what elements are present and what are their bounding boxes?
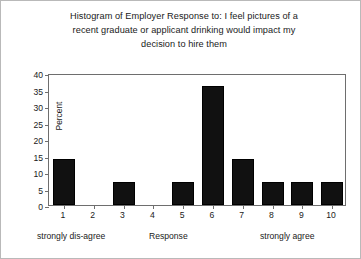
chart-title-line-1: Histogram of Employer Response to: I fee… — [29, 9, 339, 23]
histogram-bar — [202, 86, 224, 205]
scale-anchor-high-label: strongly agree — [260, 231, 314, 241]
x-axis-tick-label: 3 — [108, 211, 138, 220]
y-axis-tick-label: 15 — [21, 154, 43, 163]
histogram-bar — [321, 182, 343, 205]
plot-area: Percent 0510152025303540 — [48, 74, 346, 206]
y-axis-tick-label: 35 — [21, 88, 43, 97]
x-axis-tick-mark — [64, 205, 65, 209]
histogram-bar — [113, 182, 135, 205]
x-axis-tick-mark — [153, 205, 154, 209]
bars-layer — [49, 75, 345, 205]
x-axis-tick-label: 2 — [78, 211, 108, 220]
x-axis-tick-label: 9 — [286, 211, 316, 220]
x-axis-tick-label: 10 — [316, 211, 346, 220]
histogram-bar — [53, 159, 75, 205]
histogram-bar — [262, 182, 284, 205]
scale-anchor-low-label: strongly dis-agree — [37, 231, 105, 241]
histogram-bar — [172, 182, 194, 205]
y-axis-tick-label: 0 — [21, 203, 43, 212]
chart-title-line-2: recent graduate or applicant drinking wo… — [29, 23, 339, 37]
chart-page-frame: Histogram of Employer Response to: I fee… — [0, 0, 361, 259]
x-axis-tick-mark — [332, 205, 333, 209]
x-axis-tick-label: 1 — [48, 211, 78, 220]
x-axis-tick-mark — [124, 205, 125, 209]
x-axis-tick-mark — [213, 205, 214, 209]
x-axis-tick-mark — [273, 205, 274, 209]
y-axis-tick-label: 30 — [21, 104, 43, 113]
x-axis-tick-label: 5 — [167, 211, 197, 220]
y-axis-tick-label: 40 — [21, 71, 43, 80]
y-axis-tick-mark — [45, 207, 49, 208]
x-axis-tick-label: 7 — [227, 211, 257, 220]
chart-title-line-3: decision to hire them — [29, 37, 339, 51]
y-axis-tick-label: 10 — [21, 170, 43, 179]
y-axis-tick-label: 5 — [21, 187, 43, 196]
y-axis-tick-label: 25 — [21, 121, 43, 130]
x-axis-title: Response — [149, 231, 188, 241]
histogram-bar — [232, 159, 254, 205]
histogram-bar — [291, 182, 313, 205]
x-axis-tick-label: 4 — [137, 211, 167, 220]
x-axis-tick-label: 8 — [257, 211, 287, 220]
x-axis-tick-mark — [243, 205, 244, 209]
y-axis-tick-label: 20 — [21, 137, 43, 146]
x-axis-tick-mark — [183, 205, 184, 209]
chart-title: Histogram of Employer Response to: I fee… — [29, 9, 339, 52]
x-axis-tick-mark — [94, 205, 95, 209]
x-axis-tick-label: 6 — [197, 211, 227, 220]
x-axis-tick-mark — [302, 205, 303, 209]
